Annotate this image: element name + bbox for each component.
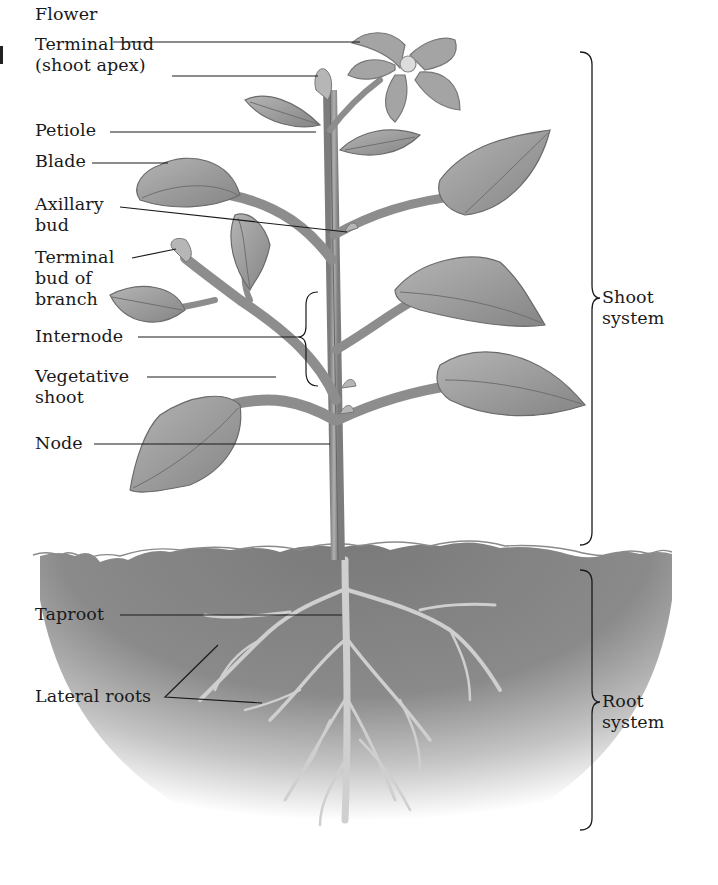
flower-illustration [348,33,460,122]
label-blade: Blade [35,151,86,172]
label-axillary-bud: Axillary bud [35,194,104,236]
label-petiole: Petiole [35,120,96,141]
label-taproot: Taproot [35,604,104,625]
label-vegetative-shoot: Vegetative shoot [35,366,129,408]
label-root-system: Root system [602,691,664,733]
label-internode: Internode [35,326,123,347]
branches [150,80,470,420]
label-terminal-bud: Terminal bud (shoot apex) [35,34,154,76]
label-lateral-roots: Lateral roots [35,686,151,707]
label-node: Node [35,433,83,454]
plant-anatomy-diagram: Flower Terminal bud (shoot apex) Petiole… [0,0,718,885]
shoot-system-bracket [580,52,600,545]
label-shoot-system: Shoot system [602,287,664,329]
leaves [110,96,585,492]
label-terminal-bud-of-branch: Terminal bud of branch [35,247,114,310]
plant-illustration [0,0,718,885]
label-flower: Flower [35,4,98,25]
main-stem [330,90,338,560]
